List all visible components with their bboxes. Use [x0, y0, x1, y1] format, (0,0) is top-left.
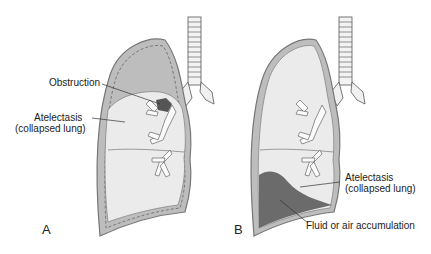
label-atelectasis-a-line2: (collapsed lung) — [15, 123, 86, 134]
label-fluid-accumulation: Fluid or air accumulation — [306, 220, 415, 231]
panel-label-b: B — [234, 222, 243, 237]
label-atelectasis-a-line1: Atelectasis — [34, 112, 82, 123]
panel-a-illustration — [92, 17, 214, 236]
trachea-b — [331, 17, 365, 106]
label-atelectasis-b-line1: Atelectasis — [345, 172, 393, 183]
label-obstruction: Obstruction — [49, 77, 100, 88]
label-atelectasis-b-line2: (collapsed lung) — [345, 183, 416, 194]
panel-label-a: A — [42, 222, 51, 237]
trachea-a — [180, 17, 214, 106]
panel-b-illustration — [251, 17, 365, 236]
